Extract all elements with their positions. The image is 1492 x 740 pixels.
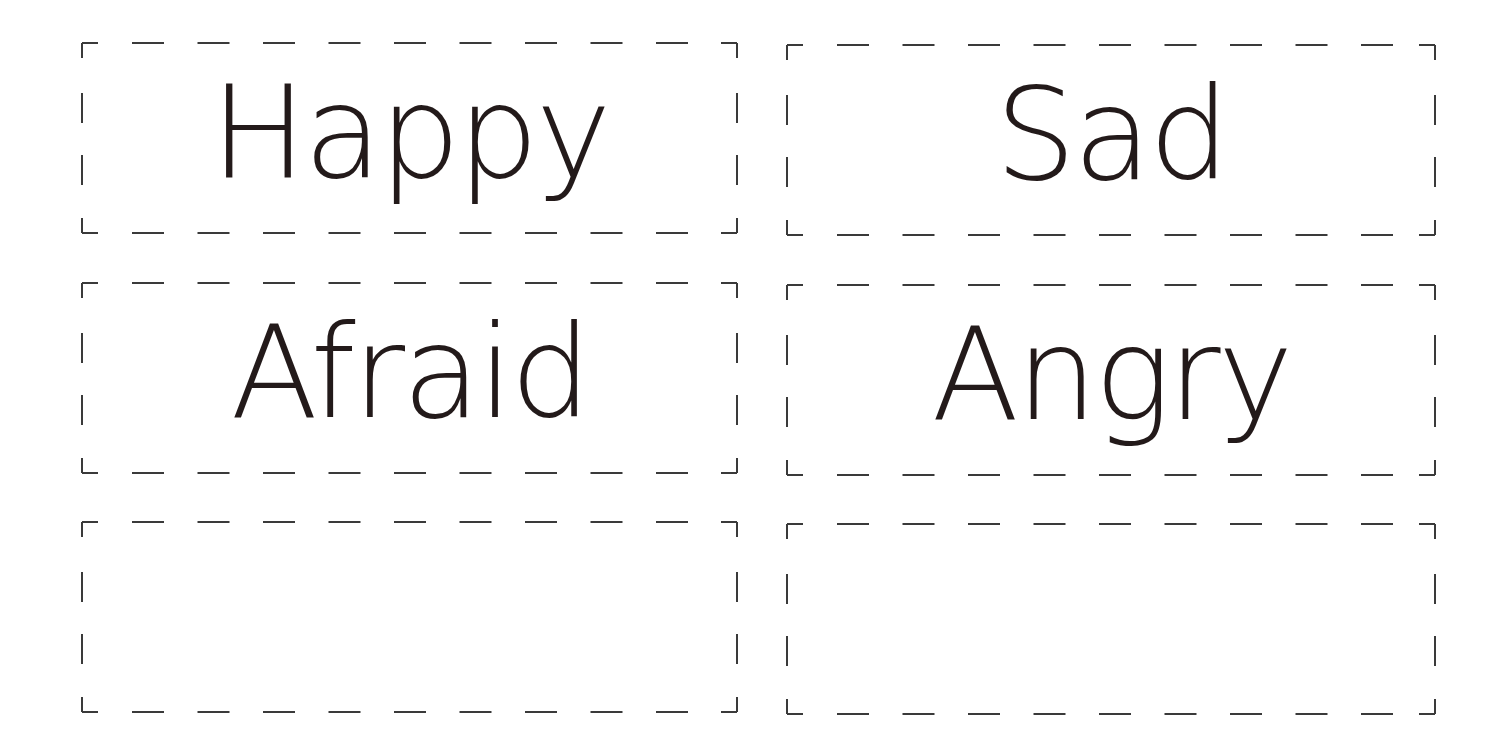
card-label: Afraid: [82, 309, 737, 437]
card-angry: Angry: [787, 285, 1435, 475]
card-blank: [82, 522, 737, 712]
card-label: Happy: [82, 69, 737, 197]
card-happy: Happy: [82, 43, 737, 233]
card-sad: Sad: [787, 45, 1435, 235]
card-blank: [787, 524, 1435, 714]
card-afraid: Afraid: [82, 283, 737, 473]
dashed-cut-border: [82, 522, 737, 712]
dashed-cut-border: [787, 524, 1435, 714]
card-label: Angry: [787, 311, 1435, 439]
card-label: Sad: [787, 71, 1435, 199]
